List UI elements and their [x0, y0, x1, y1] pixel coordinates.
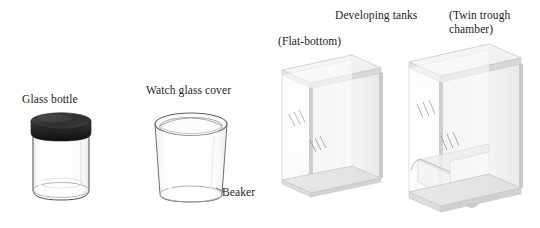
label-flat-bottom: (Flat-bottom)	[278, 35, 341, 49]
tlc-glassware-figure: Glass bottle Watch glass cover Beaker De…	[0, 0, 540, 228]
beaker-graphic	[155, 113, 227, 202]
label-glass-bottle: Glass bottle	[22, 93, 78, 107]
label-twin-trough-chamber: (Twin trough chamber)	[449, 9, 535, 36]
flat-bottom-tank-graphic	[282, 55, 383, 197]
glass-bottle-graphic	[31, 113, 91, 200]
twin-trough-chamber-graphic	[409, 44, 523, 212]
label-beaker: Beaker	[222, 186, 255, 200]
label-watch-glass-cover: Watch glass cover	[146, 84, 231, 98]
label-developing-tanks: Developing tanks	[335, 9, 417, 23]
